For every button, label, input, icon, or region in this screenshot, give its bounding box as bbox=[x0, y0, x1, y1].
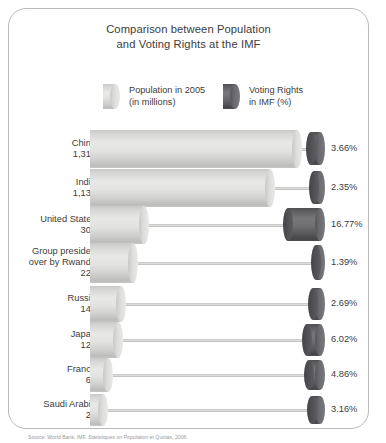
row-voting-percent: 4.86% bbox=[331, 369, 357, 379]
row-voting-percent: 3.16% bbox=[331, 404, 357, 414]
legend-label-population: Population in 2005 (in millions) bbox=[129, 85, 205, 108]
chart-row: Group presidedover by Rwanda2251.39% bbox=[0, 243, 386, 283]
connector-rod bbox=[96, 303, 323, 306]
voting-bar[interactable] bbox=[307, 324, 325, 356]
legend-population-line-1: Population in 2005 bbox=[129, 85, 205, 95]
connector-rod bbox=[96, 374, 323, 377]
voting-bar[interactable] bbox=[313, 288, 325, 320]
chart-row: Japan1286.02% bbox=[0, 322, 386, 358]
voting-swatch-icon bbox=[223, 84, 240, 109]
voting-bar[interactable] bbox=[288, 208, 325, 241]
page-title: Comparison between Population and Voting… bbox=[8, 22, 369, 52]
population-bar[interactable] bbox=[90, 358, 113, 392]
row-country-name: United States bbox=[40, 214, 96, 225]
row-voting-percent: 16.77% bbox=[331, 219, 363, 229]
legend-population-line-2: (in millions) bbox=[129, 97, 205, 109]
row-country-name: over by Rwanda bbox=[29, 257, 96, 268]
voting-bar[interactable] bbox=[312, 396, 325, 424]
row-population-value: 24 bbox=[43, 410, 96, 421]
population-bar[interactable] bbox=[90, 243, 138, 283]
voting-bar[interactable] bbox=[314, 171, 325, 204]
population-bar[interactable] bbox=[90, 322, 123, 358]
voting-bar[interactable] bbox=[309, 360, 325, 390]
connector-rod bbox=[96, 339, 323, 342]
title-line-1: Comparison between Population bbox=[8, 22, 369, 37]
population-bar[interactable] bbox=[90, 130, 302, 168]
chart-figure: Comparison between Population and Voting… bbox=[0, 0, 386, 443]
row-voting-percent: 2.69% bbox=[331, 298, 357, 308]
row-label: United States300 bbox=[40, 214, 96, 236]
title-line-2: and Voting Rights at the IMF bbox=[8, 37, 369, 52]
population-bar[interactable] bbox=[90, 286, 126, 322]
row-voting-percent: 1.39% bbox=[331, 257, 357, 267]
legend-voting-line-2: in IMF (%) bbox=[249, 97, 303, 109]
population-bar[interactable] bbox=[90, 169, 275, 207]
connector-rod bbox=[96, 409, 323, 412]
voting-bar[interactable] bbox=[316, 245, 325, 280]
chart-row: Russia1442.69% bbox=[0, 286, 386, 322]
population-swatch-icon bbox=[103, 84, 120, 109]
row-label: Saudi Arabia24 bbox=[43, 399, 96, 421]
row-population-value: 225 bbox=[29, 268, 96, 279]
chart-row: India1,1342.35% bbox=[0, 169, 386, 207]
legend-voting-line-1: Voting Rights bbox=[249, 85, 303, 95]
legend-label-voting: Voting Rights in IMF (%) bbox=[249, 85, 303, 108]
chart-row: China1,3133.66% bbox=[0, 130, 386, 168]
row-voting-percent: 2.35% bbox=[331, 182, 357, 192]
row-voting-percent: 3.66% bbox=[331, 143, 357, 153]
chart-row: Saudi Arabia243.16% bbox=[0, 394, 386, 426]
legend-item-voting: Voting Rights in IMF (%) bbox=[223, 84, 303, 109]
row-country-name: Saudi Arabia bbox=[43, 399, 96, 410]
row-voting-percent: 6.02% bbox=[331, 334, 357, 344]
row-country-name: Group presided bbox=[29, 246, 96, 257]
voting-bar[interactable] bbox=[311, 132, 325, 165]
population-bar[interactable] bbox=[90, 206, 149, 244]
population-bar[interactable] bbox=[90, 394, 108, 426]
row-population-value: 300 bbox=[40, 225, 96, 236]
row-label: Group presidedover by Rwanda225 bbox=[29, 246, 96, 280]
legend-item-population: Population in 2005 (in millions) bbox=[103, 84, 205, 109]
chart-row: France614.86% bbox=[0, 358, 386, 392]
chart-row: United States30016.77% bbox=[0, 206, 386, 244]
chart-source: Source: World Bank, IMF. Statistiques on… bbox=[28, 434, 368, 441]
chart-legend: Population in 2005 (in millions) Voting … bbox=[8, 84, 369, 114]
